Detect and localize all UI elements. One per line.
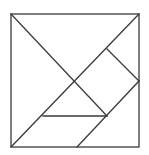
right-square-edge-line (107, 49, 139, 81)
lower-diagonal-line (77, 81, 139, 147)
top-left-diagonal-line (11, 14, 107, 116)
tangram-diagram (0, 0, 149, 155)
